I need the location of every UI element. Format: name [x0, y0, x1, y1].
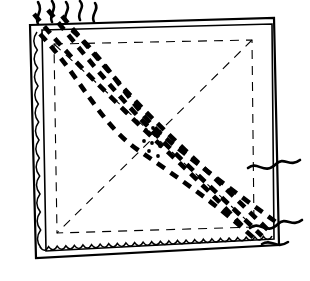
stipple-dot-5: [150, 141, 154, 145]
stipple-dot-3: [158, 131, 162, 135]
embroidery-diagram: [0, 0, 310, 281]
stipple-dot-2: [151, 126, 155, 130]
stipple-dot-8: [156, 154, 160, 158]
stipple-dot-4: [142, 139, 146, 143]
stipple-dot-6: [158, 144, 162, 148]
stipple-dot-7: [147, 149, 151, 153]
diagram-canvas: [0, 0, 310, 281]
stipple-dot-1: [144, 128, 148, 132]
